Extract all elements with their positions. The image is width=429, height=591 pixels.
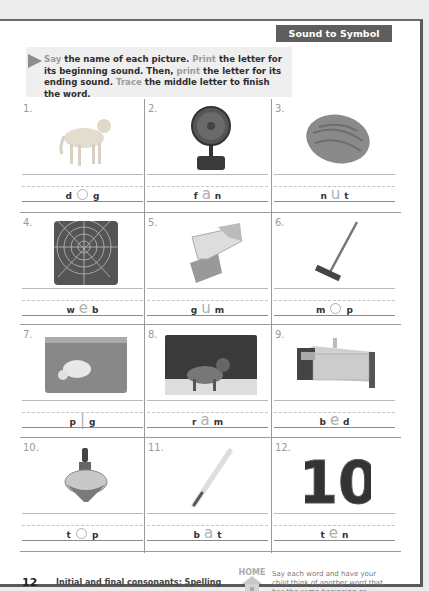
last-letter[interactable]: b	[89, 305, 101, 315]
handwriting-lines[interactable]: bat	[147, 513, 268, 549]
trace-middle-letter[interactable]: a	[202, 188, 211, 201]
word-answer[interactable]: nut	[274, 188, 395, 201]
last-letter[interactable]: t	[214, 530, 224, 540]
item-number: 9.	[275, 329, 285, 340]
trace-middle-letter[interactable]	[330, 303, 341, 314]
worksheet-page: Sound to Symbol Say the name of each pic…	[0, 19, 423, 587]
exercise-item-pig: 7.p|g	[20, 325, 147, 438]
first-letter[interactable]: d	[63, 191, 75, 201]
word-answer[interactable]: gum	[147, 302, 268, 315]
baseline	[274, 315, 395, 316]
handwriting-lines[interactable]: ten	[274, 513, 395, 549]
trace-middle-letter[interactable]: e	[79, 302, 88, 315]
web-picture-icon	[34, 219, 137, 287]
gum-picture-icon	[159, 219, 262, 287]
last-letter[interactable]: p	[89, 530, 101, 540]
word-answer[interactable]: tp	[22, 527, 143, 540]
last-letter[interactable]: g	[86, 417, 98, 427]
first-letter[interactable]: r	[189, 417, 199, 427]
midline	[22, 186, 143, 187]
handwriting-lines[interactable]: p|g	[22, 400, 143, 436]
exercise-item-ram: 8.ram	[145, 325, 272, 438]
mop-picture-icon	[286, 219, 389, 287]
last-letter[interactable]: m	[211, 417, 226, 427]
first-letter[interactable]: b	[191, 530, 203, 540]
top-line	[22, 288, 143, 289]
trace-middle-letter[interactable]: u	[201, 302, 211, 315]
exercise-item-bat: 11.bat	[145, 438, 272, 551]
footer-title: Initial and final consonants: Spelling	[56, 578, 221, 587]
trace-middle-letter[interactable]	[77, 189, 88, 200]
word-answer[interactable]: p|g	[22, 414, 143, 427]
row-divider	[20, 324, 401, 325]
baseline	[22, 201, 143, 202]
handwriting-lines[interactable]: dg	[22, 174, 143, 210]
first-letter[interactable]: p	[67, 417, 79, 427]
first-letter[interactable]: t	[318, 530, 328, 540]
handwriting-lines[interactable]: tp	[22, 513, 143, 549]
instruction-verb: Say	[44, 54, 61, 64]
exercise-item-top: 10.tp	[20, 438, 147, 551]
word-answer[interactable]: ram	[147, 414, 268, 427]
last-letter[interactable]: n	[339, 530, 351, 540]
first-letter[interactable]: f	[191, 191, 201, 201]
trace-middle-letter[interactable]: e	[329, 527, 338, 540]
instruction-text: the name of each picture.	[61, 54, 192, 64]
bed-picture-icon	[286, 331, 389, 399]
last-letter[interactable]: d	[340, 417, 352, 427]
last-letter[interactable]: m	[212, 305, 227, 315]
fan-picture-icon	[159, 105, 262, 173]
word-answer[interactable]: mp	[274, 302, 395, 315]
exercise-item-bed: 9.bed	[272, 325, 399, 438]
first-letter[interactable]: w	[63, 305, 77, 315]
bat-picture-icon	[159, 444, 262, 512]
word-answer[interactable]: bed	[274, 414, 395, 427]
first-letter[interactable]: m	[313, 305, 328, 315]
trace-middle-letter[interactable]: |	[80, 414, 85, 427]
top-line	[147, 400, 268, 401]
trace-middle-letter[interactable]	[76, 528, 87, 539]
top-line	[22, 174, 143, 175]
trace-middle-letter[interactable]: e	[330, 414, 339, 427]
trace-middle-letter[interactable]: u	[331, 188, 341, 201]
handwriting-lines[interactable]: ram	[147, 400, 268, 436]
handwriting-lines[interactable]: bed	[274, 400, 395, 436]
midline	[274, 300, 395, 301]
word-answer[interactable]: fan	[147, 188, 268, 201]
top-line	[147, 288, 268, 289]
item-number: 1.	[23, 103, 33, 114]
top-line	[147, 513, 268, 514]
first-letter[interactable]: b	[316, 417, 328, 427]
trace-middle-letter[interactable]: a	[200, 414, 209, 427]
instruction-verb: Print	[192, 54, 216, 64]
instruction-verb: print	[177, 66, 201, 76]
section-header: Sound to Symbol	[276, 25, 392, 42]
top-line	[274, 400, 395, 401]
last-letter[interactable]: t	[341, 191, 351, 201]
ten-picture-icon: 10	[286, 444, 389, 512]
word-answer[interactable]: web	[22, 302, 143, 315]
svg-text:10: 10	[305, 449, 371, 509]
trace-middle-letter[interactable]: a	[204, 527, 213, 540]
handwriting-lines[interactable]: nut	[274, 174, 395, 210]
home-label: HOME	[239, 568, 266, 577]
first-letter[interactable]: t	[64, 530, 74, 540]
word-answer[interactable]: dg	[22, 188, 143, 201]
item-number: 7.	[23, 329, 33, 340]
first-letter[interactable]: g	[188, 305, 200, 315]
section-title: Sound to Symbol	[289, 28, 380, 39]
last-letter[interactable]: p	[343, 305, 355, 315]
handwriting-lines[interactable]: web	[22, 288, 143, 324]
last-letter[interactable]: n	[212, 191, 224, 201]
word-answer[interactable]: ten	[274, 527, 395, 540]
handwriting-lines[interactable]: fan	[147, 174, 268, 210]
instruction-verb: Trace	[116, 77, 142, 87]
baseline	[22, 540, 143, 541]
last-letter[interactable]: g	[90, 191, 102, 201]
handwriting-lines[interactable]: mp	[274, 288, 395, 324]
handwriting-lines[interactable]: gum	[147, 288, 268, 324]
dog-picture-icon	[34, 105, 137, 173]
word-answer[interactable]: bat	[147, 527, 268, 540]
first-letter[interactable]: n	[317, 191, 329, 201]
top-line	[274, 288, 395, 289]
